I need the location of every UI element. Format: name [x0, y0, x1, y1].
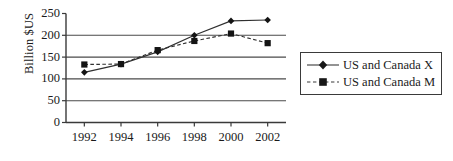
legend-key-dashed-square-icon — [306, 75, 340, 89]
legend-item-us-and-canada-x: US and Canada X — [306, 56, 435, 73]
line-chart-figure: Billion $US 050100150200250 199219941996… — [0, 0, 453, 161]
legend-label: US and Canada X — [343, 58, 433, 72]
y-tick-label: 150 — [26, 51, 60, 63]
legend-item-us-and-canada-m: US and Canada M — [306, 73, 435, 90]
x-tick-label: 2002 — [247, 131, 289, 143]
y-tick-label: 100 — [26, 72, 60, 84]
legend-key-solid-diamond-icon — [306, 58, 340, 72]
chart-legend: US and Canada X US and Canada M — [300, 52, 442, 95]
y-tick-label: 50 — [26, 94, 60, 106]
y-tick-label: 0 — [26, 116, 60, 128]
legend-label: US and Canada M — [343, 75, 435, 89]
y-tick-label: 200 — [26, 29, 60, 41]
series-lines-group — [84, 20, 267, 72]
gridlines-group — [66, 35, 286, 100]
y-tick-label: 250 — [26, 7, 60, 19]
axis-lines-group — [66, 14, 286, 123]
